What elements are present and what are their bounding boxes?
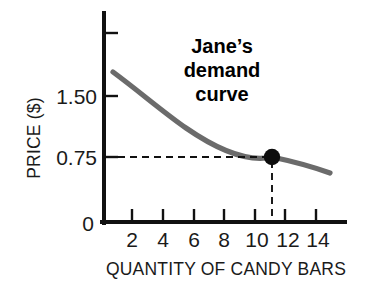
x-tick-label-12: 12 bbox=[276, 228, 299, 251]
annotation-line-2: demand bbox=[184, 59, 261, 81]
x-tick-label-6: 6 bbox=[188, 228, 200, 251]
x-axis-title: QUANTITY OF CANDY BARS bbox=[106, 259, 346, 279]
annotation-line-1: Jane’s bbox=[191, 35, 253, 57]
y-axis-ticks bbox=[104, 33, 118, 157]
x-tick-label-8: 8 bbox=[218, 228, 230, 251]
y-tick-label-0-75: 0.75 bbox=[56, 146, 97, 169]
x-tick-label-4: 4 bbox=[157, 228, 169, 251]
chart-canvas: 1.50 0.75 0 PRICE ($) 2 4 6 8 10 12 14 Q… bbox=[0, 0, 369, 297]
x-tick-label-10: 10 bbox=[245, 228, 268, 251]
y-axis-title: PRICE ($) bbox=[24, 97, 44, 179]
highlight-point-marker bbox=[264, 149, 280, 165]
annotation-line-3: curve bbox=[195, 83, 248, 105]
x-tick-label-14: 14 bbox=[306, 228, 330, 251]
y-tick-label-1-50: 1.50 bbox=[56, 85, 97, 108]
origin-label: 0 bbox=[82, 212, 94, 235]
x-tick-label-2: 2 bbox=[126, 228, 138, 251]
demand-curve-figure: 1.50 0.75 0 PRICE ($) 2 4 6 8 10 12 14 Q… bbox=[0, 0, 369, 297]
curve-annotation: Jane’s demand curve bbox=[184, 35, 261, 105]
